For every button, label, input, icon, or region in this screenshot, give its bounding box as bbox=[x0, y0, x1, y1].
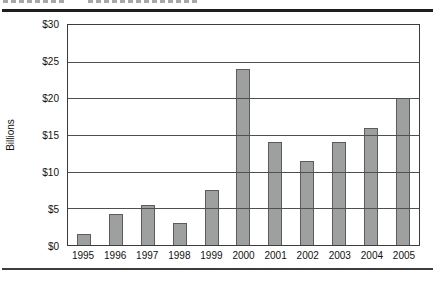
bar-2003 bbox=[332, 142, 346, 245]
y-tick-label: $0 bbox=[48, 241, 59, 252]
exhibit-figure: Billions $30$25$20$15$10$5$0 19951996199… bbox=[0, 0, 435, 283]
bar-1995 bbox=[77, 234, 91, 245]
x-tick-label: 1995 bbox=[67, 250, 99, 264]
y-tick-label: $30 bbox=[42, 19, 59, 30]
gridline bbox=[68, 98, 419, 99]
bar-2000 bbox=[236, 69, 250, 245]
bar-1996 bbox=[109, 214, 123, 245]
gridline bbox=[68, 135, 419, 136]
x-tick-label: 2002 bbox=[292, 250, 324, 264]
x-tick-label: 2005 bbox=[388, 250, 420, 264]
top-divider-rule bbox=[2, 9, 433, 12]
x-tick-label: 2001 bbox=[260, 250, 292, 264]
x-tick-label: 2004 bbox=[356, 250, 388, 264]
bar-1997 bbox=[141, 205, 155, 245]
x-tick-label: 1997 bbox=[131, 250, 163, 264]
plot-area bbox=[67, 24, 420, 246]
bar-2004 bbox=[364, 128, 378, 245]
y-tick-label: $20 bbox=[42, 92, 59, 103]
bar-1998 bbox=[173, 223, 187, 245]
y-tick-label: $15 bbox=[42, 130, 59, 141]
gridline bbox=[68, 208, 419, 209]
y-axis-ticks: $30$25$20$15$10$5$0 bbox=[0, 24, 62, 246]
x-axis-labels: 1995199619971998199920002001200220032004… bbox=[67, 250, 420, 264]
bar-2001 bbox=[268, 142, 282, 245]
x-tick-label: 2000 bbox=[227, 250, 259, 264]
y-tick-label: $5 bbox=[48, 204, 59, 215]
y-tick-label: $10 bbox=[42, 166, 59, 177]
cropped-caption-fragment bbox=[3, 0, 65, 3]
gridline bbox=[68, 172, 419, 173]
x-tick-label: 2003 bbox=[324, 250, 356, 264]
x-tick-label: 1998 bbox=[163, 250, 195, 264]
bottom-divider-rule bbox=[2, 268, 433, 270]
gridline bbox=[68, 62, 419, 63]
y-tick-label: $25 bbox=[42, 55, 59, 66]
x-tick-label: 1996 bbox=[99, 250, 131, 264]
cropped-caption-fragment bbox=[88, 0, 198, 3]
bar-2002 bbox=[300, 161, 314, 245]
x-tick-label: 1999 bbox=[195, 250, 227, 264]
bar-1999 bbox=[205, 190, 219, 245]
